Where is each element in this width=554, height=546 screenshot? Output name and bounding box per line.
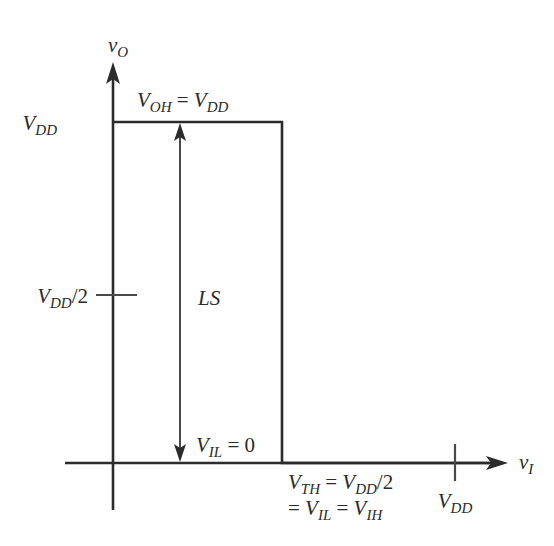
vtc-diagram-canvas: vO vI VDD VDD/2 VDD VOH = VDD LS VIL = 0…: [0, 0, 554, 546]
x-axis-label: vI: [519, 450, 534, 477]
vtc-figure: vO vI VDD VDD/2 VDD VOH = VDD LS VIL = 0…: [0, 0, 554, 546]
annotation-threshold-line-1: VTH = VDD/2: [288, 470, 393, 497]
annotation-logic-swing: LS: [197, 286, 221, 310]
annotation-threshold-line-2: = VIL = VIH: [288, 496, 383, 523]
annotation-voh: VOH = VDD: [137, 88, 229, 115]
x-tick-label-vdd: VDD: [438, 489, 473, 516]
y-tick-label-vdd-half: VDD/2: [37, 284, 88, 311]
y-axis-label: vO: [108, 33, 128, 60]
y-tick-label-vdd: VDD: [23, 111, 58, 138]
transfer-characteristic-curve: [113, 122, 490, 463]
annotation-vil-zero: VIL = 0: [196, 433, 255, 460]
